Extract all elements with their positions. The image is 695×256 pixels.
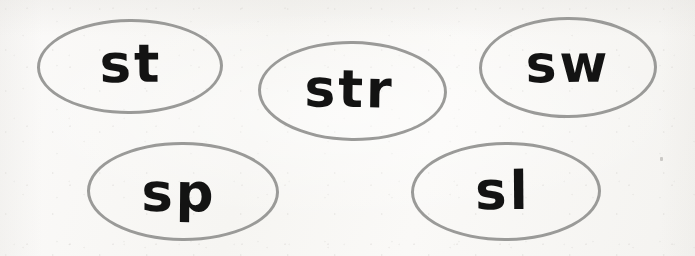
blend-label-st: st	[99, 37, 162, 91]
blend-label-sw: sw	[525, 37, 610, 90]
blend-oval-sw[interactable]: sw	[479, 16, 658, 118]
blend-oval-str[interactable]: str	[257, 40, 447, 143]
blend-label-sp: sp	[141, 166, 217, 220]
blend-oval-st[interactable]: st	[37, 18, 224, 115]
blend-oval-sl[interactable]: sl	[411, 141, 602, 242]
blend-oval-sp[interactable]: sp	[87, 141, 280, 242]
blend-label-str: str	[304, 62, 395, 115]
scan-artifact-speck	[660, 157, 663, 161]
blend-label-sl: sl	[475, 164, 531, 217]
worksheet-page: st str sw sp sl	[0, 0, 695, 256]
